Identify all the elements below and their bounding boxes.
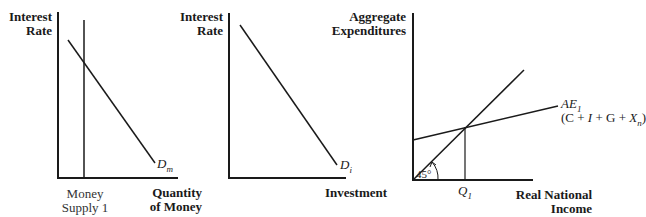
- money-supply-label: Money Supply 1: [50, 187, 120, 215]
- formula-part: ): [642, 110, 646, 125]
- ae-y-axis-label: Aggregate Expenditures: [300, 10, 406, 38]
- label-line: Rate: [170, 24, 223, 38]
- label-line: Interest: [2, 10, 52, 24]
- label-line: Money: [50, 187, 120, 201]
- money-y-axis-label: Interest Rate: [2, 10, 52, 38]
- label-line: Real National: [500, 188, 592, 202]
- money-demand-curve: [68, 40, 155, 163]
- investment-x-axis-label: Investment: [325, 186, 387, 200]
- investment-y-axis-label: Interest Rate: [170, 10, 223, 38]
- curve-subscript: i: [349, 165, 352, 175]
- q-subscript: 1: [467, 191, 472, 201]
- label-line: Quantity: [130, 186, 202, 200]
- label-line: Aggregate: [300, 10, 406, 24]
- formula-part: (C +: [561, 110, 588, 125]
- ae-formula: (C + I + G + Xn): [561, 111, 646, 130]
- label-line: Supply 1: [50, 201, 120, 215]
- investment-demand-curve: [240, 25, 337, 165]
- investment-demand-label: Di: [340, 158, 352, 177]
- formula-net-exports: X: [629, 110, 637, 125]
- money-x-axis-label: Quantity of Money: [130, 186, 202, 214]
- money-demand-label: Dm: [157, 157, 173, 176]
- ae-x-axis-label: Real National Income: [500, 188, 592, 216]
- ae-curve: [413, 106, 558, 140]
- formula-part: + G +: [592, 110, 629, 125]
- label-line: Expenditures: [300, 24, 406, 38]
- label-line: Income: [500, 202, 592, 216]
- curve-letter: D: [157, 156, 166, 171]
- label-line: Interest: [170, 10, 223, 24]
- ae-letters: AE: [561, 96, 577, 111]
- label-line: Investment: [325, 186, 387, 200]
- q-letter: Q: [458, 183, 467, 198]
- forty-five-degree-line: [413, 70, 524, 180]
- curve-subscript: m: [166, 164, 173, 174]
- label-line: Rate: [2, 24, 52, 38]
- q1-label: Q1: [458, 184, 472, 203]
- curve-letter: D: [340, 157, 349, 172]
- label-line: of Money: [130, 200, 202, 214]
- angle-label: 45°: [416, 167, 431, 181]
